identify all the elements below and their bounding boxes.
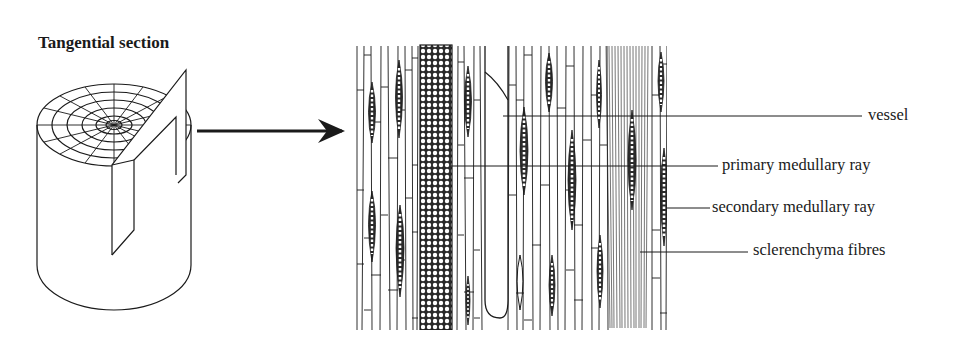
secondary-ray xyxy=(597,235,603,308)
secondary-ray xyxy=(658,52,664,112)
secondary-ray xyxy=(466,276,470,325)
vessel-element xyxy=(485,46,508,318)
secondary-ray xyxy=(597,60,602,128)
secondary-ray xyxy=(628,110,636,210)
secondary-ray xyxy=(546,53,553,112)
secondary-ray xyxy=(396,60,403,138)
primary-ray-band xyxy=(420,45,452,330)
log-cylinder-illustration xyxy=(37,70,191,310)
label-vessel: vessel xyxy=(868,105,908,125)
label-sclerenchyma-fibres: sclerenchyma fibres xyxy=(753,240,885,260)
secondary-ray xyxy=(369,82,376,143)
leader-lines xyxy=(451,116,862,252)
secondary-ray xyxy=(465,66,472,137)
secondary-ray xyxy=(369,191,376,262)
secondary-ray xyxy=(520,107,528,195)
tangential-section-drawing xyxy=(357,45,668,330)
label-secondary-medullary-ray: secondary medullary ray xyxy=(712,197,875,217)
label-primary-medullary-ray: primary medullary ray xyxy=(722,155,870,175)
